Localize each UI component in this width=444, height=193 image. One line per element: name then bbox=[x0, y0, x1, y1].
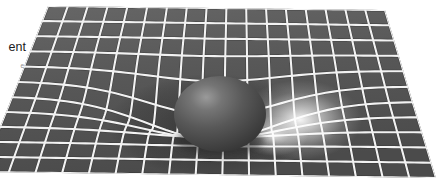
spacetime-grid-illustration bbox=[0, 0, 444, 193]
massive-body-sphere bbox=[174, 76, 266, 152]
spacetime-curvature-figure: ent e bbox=[0, 0, 444, 193]
